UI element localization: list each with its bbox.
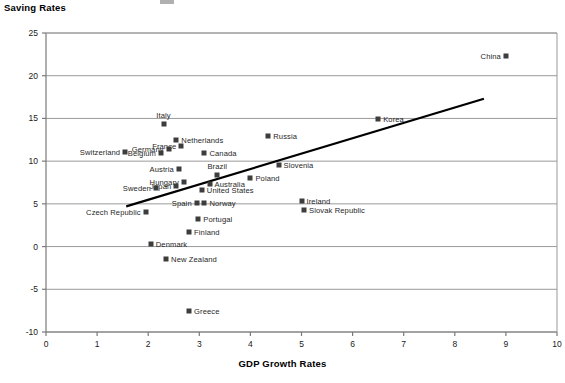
x-tick-label: 4 (248, 339, 253, 349)
x-tick-label: 2 (146, 339, 151, 349)
data-point-marker (196, 217, 201, 222)
data-point-label: Portugal (203, 215, 232, 224)
data-point-label: Czech Republic (86, 208, 141, 217)
trendline (126, 99, 484, 207)
x-tick-label: 0 (44, 339, 49, 349)
data-point-marker (202, 150, 207, 155)
axis-ticks (42, 33, 557, 336)
data-point-marker (187, 230, 192, 235)
data-point-label: China (481, 52, 501, 61)
data-point-label: Korea (383, 115, 404, 124)
data-point-label: Denmark (156, 240, 188, 249)
data-point-label: Slovak Republic (309, 205, 365, 214)
data-point-marker (161, 122, 166, 127)
data-point-label: Norway (209, 199, 235, 208)
scatter-chart: Saving Rates 2520151050-5-10 01234567891… (0, 0, 565, 383)
data-point-marker (299, 199, 304, 204)
data-point-marker (376, 117, 381, 122)
data-point-label: Spain (172, 199, 192, 208)
data-point-label: Russia (273, 132, 297, 141)
data-point-label: Greece (194, 306, 220, 315)
y-tick-label: 10 (0, 156, 38, 166)
x-tick-label: 5 (299, 339, 304, 349)
data-point-label: Austria (150, 164, 174, 173)
data-point-marker (302, 207, 307, 212)
data-point-marker (176, 166, 181, 171)
data-point-marker (276, 162, 281, 167)
data-point-label: New Zealand (171, 254, 217, 263)
x-tick-label: 8 (452, 339, 457, 349)
data-point-label: Brazil (207, 162, 227, 171)
data-point-label: United States (207, 186, 254, 195)
y-tick-label: -5 (0, 284, 38, 294)
data-point-label: Finland (194, 228, 220, 237)
y-tick-label: 20 (0, 71, 38, 81)
y-tick-label: -10 (0, 327, 38, 337)
data-point-marker (174, 183, 179, 188)
data-point-label: Switzerland (80, 147, 120, 156)
data-point-marker (215, 172, 220, 177)
data-point-label: Slovenia (284, 160, 314, 169)
data-point-marker (194, 201, 199, 206)
data-point-marker (503, 54, 508, 59)
x-tick-label: 3 (197, 339, 202, 349)
data-point-label: Sweden (123, 183, 151, 192)
data-point-marker (143, 210, 148, 215)
data-point-marker (199, 188, 204, 193)
data-point-label: Netherlands (181, 135, 223, 144)
x-tick-label: 9 (504, 339, 509, 349)
y-tick-label: 15 (0, 113, 38, 123)
y-tick-label: 0 (0, 242, 38, 252)
data-point-marker (164, 256, 169, 261)
data-point-marker (202, 201, 207, 206)
data-point-label: Belgium (128, 148, 156, 157)
data-point-marker (148, 242, 153, 247)
data-point-marker (166, 147, 171, 152)
data-point-label: Poland (255, 174, 279, 183)
data-point-marker (187, 308, 192, 313)
y-tick-label: 5 (0, 199, 38, 209)
data-point-marker (248, 176, 253, 181)
data-point-marker (181, 179, 186, 184)
x-tick-label: 1 (95, 339, 100, 349)
x-axis-title: GDP Growth Rates (0, 358, 565, 369)
x-tick-label: 7 (401, 339, 406, 349)
data-point-marker (266, 134, 271, 139)
data-point-marker (153, 185, 158, 190)
x-tick-label: 6 (350, 339, 355, 349)
data-point-marker (158, 150, 163, 155)
data-point-marker (179, 143, 184, 148)
data-point-label: Italy (156, 111, 170, 120)
x-tick-label: 10 (552, 339, 561, 349)
data-point-label: Canada (209, 148, 236, 157)
y-tick-label: 25 (0, 28, 38, 38)
